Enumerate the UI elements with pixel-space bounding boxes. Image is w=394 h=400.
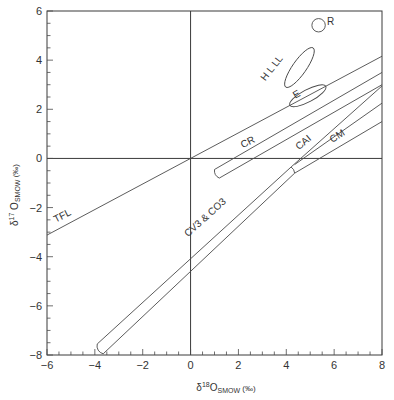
x-tick-label: −6 [41,359,54,371]
x-tick-label: 0 [188,359,194,371]
line-cv3-lower [103,173,294,354]
cr-band-end-cap [214,169,219,178]
region-h-l-ll [280,44,319,91]
x-tick-label: −2 [136,359,149,371]
x-tick-label: −4 [89,359,102,371]
x-tick-label: 2 [235,359,241,371]
label-tfl: TFL [52,206,73,224]
x-tick-label: 4 [283,359,289,371]
label-cv3-co3: CV3 & CO3 [182,195,229,238]
x-tick-label: 6 [331,359,337,371]
label-cr: CR [239,134,257,150]
plot-area: TFLCRCAICMCV3 & CO3H L LLER [47,11,382,355]
y-tick-label: −6 [29,300,42,312]
label-cai: CAI [293,133,313,152]
y-axis-label: δ17 OSMOW (‰) [8,164,21,226]
y-tick-label: 6 [36,5,42,17]
y-tick-label: 0 [36,152,42,164]
line-cv3-upper [97,167,291,344]
region-r [312,19,325,32]
y-tick-label: −2 [29,202,42,214]
y-tick-label: 4 [36,54,42,66]
plot-frame [47,11,382,355]
oxygen-isotope-chart: TFLCRCAICMCV3 & CO3H L LLER −6−4−202468 … [0,0,394,400]
label-e: E [291,87,303,100]
x-axis-label: δ18OSMOW (‰) [196,381,256,394]
y-tick-labels: −8−6−4−20246 [29,5,42,361]
y-tick-label: −8 [29,349,42,361]
line-cai [291,86,382,167]
label-r: R [327,16,334,27]
label-h-l-ll: H L LL [258,53,285,83]
y-tick-label: −4 [29,251,42,263]
y-tick-label: 2 [36,103,42,115]
x-tick-label: 8 [379,359,385,371]
cv3-band-top-cap [291,167,295,173]
x-tick-labels: −6−4−202468 [41,359,385,371]
line-cr-lower [219,85,382,178]
cv3-band-end-cap [97,344,103,354]
